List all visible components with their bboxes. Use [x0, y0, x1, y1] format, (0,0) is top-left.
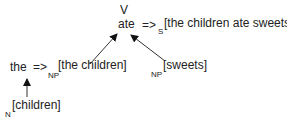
label-s: S [158, 28, 163, 36]
result-n-children: [children] [12, 99, 61, 111]
arrow-np-sweets-to-ate [131, 35, 165, 61]
label-np-left: NP [48, 72, 59, 80]
result-sentence: [the children ate sweets] [164, 17, 287, 29]
label-np-right: NP [151, 71, 162, 79]
result-np-the-children: [the children] [58, 59, 127, 71]
word-the: the [10, 61, 27, 73]
rewrite-arrow-top: => [142, 19, 156, 31]
label-n: N [5, 111, 11, 119]
category-v: V [120, 4, 128, 16]
rewrite-arrow-left: => [33, 61, 47, 73]
result-np-sweets: [sweets] [163, 59, 207, 71]
word-ate: ate [118, 18, 135, 30]
